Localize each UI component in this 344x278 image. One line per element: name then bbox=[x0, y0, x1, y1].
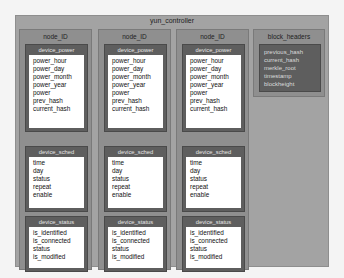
table-device-sched: device_schedtimedaystatusrepeatenable bbox=[104, 146, 167, 212]
table-device-status: device_statusis_identifiedis_connectedst… bbox=[25, 216, 88, 272]
table-title: device_status bbox=[105, 217, 166, 227]
yun-controller-container: yun_controller node_IDdevice_powerpower_… bbox=[15, 15, 329, 267]
table-device-power: device_powerpower_hourpower_daypower_mon… bbox=[182, 44, 245, 132]
field-status: status bbox=[33, 175, 80, 183]
field-prev-hash: prev_hash bbox=[112, 97, 159, 105]
field-day: day bbox=[190, 167, 237, 175]
table-fields: timedaystatusrepeatenable bbox=[108, 157, 163, 208]
table-fields: power_hourpower_daypower_monthpower_year… bbox=[29, 55, 84, 128]
table-fields: power_hourpower_daypower_monthpower_year… bbox=[186, 55, 241, 128]
block-headers-box: block_headers previous_hash current_hash… bbox=[253, 29, 325, 97]
table-title: device_power bbox=[183, 45, 244, 55]
field-is-modified: is_modified bbox=[112, 253, 159, 261]
field-current-hash: current_hash bbox=[190, 105, 237, 113]
field-power: power bbox=[33, 89, 80, 97]
table-title: device_sched bbox=[183, 147, 244, 157]
field-power-year: power_year bbox=[190, 81, 237, 89]
field-prev-hash: prev_hash bbox=[33, 97, 80, 105]
table-fields: is_identifiedis_connectedstatusis_modifi… bbox=[108, 227, 163, 268]
field-current-hash: current_hash bbox=[112, 105, 159, 113]
field-power-day: power_day bbox=[190, 65, 237, 73]
field-power-hour: power_hour bbox=[190, 57, 237, 65]
field-power-month: power_month bbox=[112, 73, 159, 81]
field-merkle-root: merkle_root bbox=[264, 64, 316, 72]
table-title: device_status bbox=[183, 217, 244, 227]
field-status: status bbox=[190, 175, 237, 183]
field-day: day bbox=[33, 167, 80, 175]
field-power-year: power_year bbox=[112, 81, 159, 89]
table-fields: is_identifiedis_connectedstatusis_modifi… bbox=[29, 227, 84, 268]
field-status: status bbox=[33, 245, 80, 253]
field-is-identified: is_identified bbox=[33, 229, 80, 237]
field-time: time bbox=[112, 159, 159, 167]
table-fields: timedaystatusrepeatenable bbox=[186, 157, 241, 208]
table-title: device_power bbox=[105, 45, 166, 55]
table-device-sched: device_schedtimedaystatusrepeatenable bbox=[25, 146, 88, 212]
table-fields: is_identifiedis_connectedstatusis_modifi… bbox=[186, 227, 241, 268]
field-power: power bbox=[112, 89, 159, 97]
node-box-2: node_IDdevice_powerpower_hourpower_daypo… bbox=[98, 29, 171, 270]
table-device-sched: device_schedtimedaystatusrepeatenable bbox=[182, 146, 245, 212]
table-device-power: device_powerpower_hourpower_daypower_mon… bbox=[104, 44, 167, 132]
field-power-day: power_day bbox=[33, 65, 80, 73]
field-is-connected: is_connected bbox=[190, 237, 237, 245]
table-device-status: device_statusis_identifiedis_connectedst… bbox=[104, 216, 167, 272]
field-timestamp: timestamp bbox=[264, 72, 316, 80]
field-repeat: repeat bbox=[190, 183, 237, 191]
field-is-modified: is_modified bbox=[190, 253, 237, 261]
field-repeat: repeat bbox=[112, 183, 159, 191]
field-time: time bbox=[190, 159, 237, 167]
table-title: device_power bbox=[26, 45, 87, 55]
field-prev-hash: prev_hash bbox=[190, 97, 237, 105]
table-device-power: device_powerpower_hourpower_daypower_mon… bbox=[25, 44, 88, 132]
field-power-hour: power_hour bbox=[33, 57, 80, 65]
field-previous-hash: previous_hash bbox=[264, 48, 316, 56]
field-repeat: repeat bbox=[33, 183, 80, 191]
field-is-identified: is_identified bbox=[112, 229, 159, 237]
field-current-hash: current_hash bbox=[264, 56, 316, 64]
field-enable: enable bbox=[112, 191, 159, 199]
field-power-day: power_day bbox=[112, 65, 159, 73]
field-power-hour: power_hour bbox=[112, 57, 159, 65]
field-is-identified: is_identified bbox=[190, 229, 237, 237]
field-is-connected: is_connected bbox=[33, 237, 80, 245]
table-fields: power_hourpower_daypower_monthpower_year… bbox=[108, 55, 163, 128]
node-title: node_ID bbox=[99, 33, 170, 43]
field-power-month: power_month bbox=[33, 73, 80, 81]
field-status: status bbox=[190, 245, 237, 253]
field-status: status bbox=[112, 175, 159, 183]
field-current-hash: current_hash bbox=[33, 105, 80, 113]
yun-controller-title: yun_controller bbox=[16, 17, 328, 24]
table-device-status: device_statusis_identifiedis_connectedst… bbox=[182, 216, 245, 272]
node-box-3: node_IDdevice_powerpower_hourpower_daypo… bbox=[176, 29, 249, 270]
field-power-month: power_month bbox=[190, 73, 237, 81]
block-headers-fields: previous_hash current_hash merkle_root t… bbox=[259, 44, 321, 92]
field-day: day bbox=[112, 167, 159, 175]
field-is-modified: is_modified bbox=[33, 253, 80, 261]
field-status: status bbox=[112, 245, 159, 253]
table-fields: timedaystatusrepeatenable bbox=[29, 157, 84, 208]
table-title: device_sched bbox=[26, 147, 87, 157]
block-headers-title: block_headers bbox=[254, 33, 324, 43]
table-title: device_sched bbox=[105, 147, 166, 157]
node-title: node_ID bbox=[20, 33, 91, 43]
field-blockheight: blockheight bbox=[264, 80, 316, 88]
field-enable: enable bbox=[33, 191, 80, 199]
field-enable: enable bbox=[190, 191, 237, 199]
field-power-year: power_year bbox=[33, 81, 80, 89]
node-title: node_ID bbox=[177, 33, 248, 43]
field-time: time bbox=[33, 159, 80, 167]
table-title: device_status bbox=[26, 217, 87, 227]
field-is-connected: is_connected bbox=[112, 237, 159, 245]
field-power: power bbox=[190, 89, 237, 97]
node-box-1: node_IDdevice_powerpower_hourpower_daypo… bbox=[19, 29, 92, 270]
